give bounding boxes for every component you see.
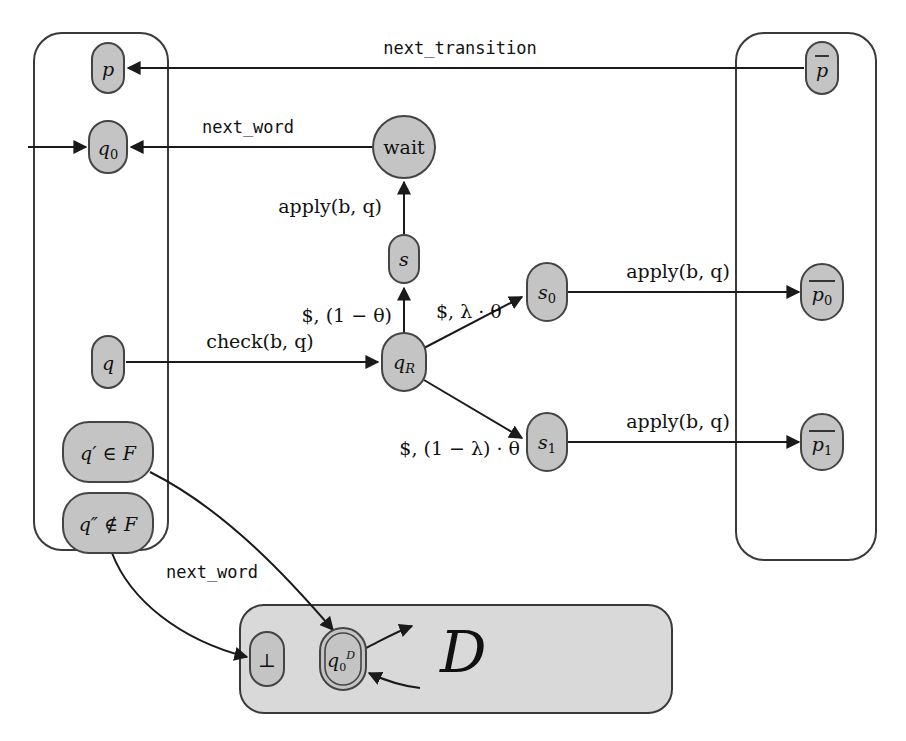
node-p-bar[interactable]: p [806, 42, 838, 94]
node-wait-label: wait [383, 136, 425, 158]
node-p-bar-0[interactable]: p0 [801, 264, 843, 320]
node-s[interactable]: s [389, 235, 419, 283]
node-q[interactable]: q [92, 336, 124, 388]
edge-qR-to-s1 [424, 380, 522, 438]
node-s-label: s [399, 248, 409, 270]
node-bottom-label: ⊥ [258, 649, 276, 671]
node-bottom[interactable]: ⊥ [250, 632, 284, 686]
node-p-bar-1[interactable]: p1 [801, 414, 843, 470]
node-p-bar-label: p [816, 59, 828, 81]
edge-label-apply-s1: apply(b, q) [626, 410, 730, 432]
edge-label-prob-stay: $, (1 − θ) [301, 304, 392, 326]
edge-label-apply-wait: apply(b, q) [278, 195, 382, 217]
node-p-label: p [102, 58, 114, 80]
node-q-dprime-notin-F-label: q″ ∉ F [79, 513, 138, 535]
node-qR[interactable]: qR [382, 333, 426, 391]
edge-label-prob-one-minus-lambda: $, (1 − λ) · θ [399, 437, 520, 459]
node-q-label: q [102, 352, 114, 374]
node-p[interactable]: p [92, 43, 124, 93]
node-q0-D[interactable]: q0D [320, 628, 366, 690]
diagram-canvas: next_transition next_word apply(b, q) $,… [0, 0, 906, 741]
edge-label-next-transition: next_transition [383, 38, 537, 58]
node-wait[interactable]: wait [373, 116, 435, 178]
calligraphic-D-label: D [439, 618, 487, 686]
node-q-prime-in-F[interactable]: q′ ∈ F [63, 422, 153, 482]
edge-label-next-word-bottom: next_word [166, 562, 258, 582]
state-diagram: next_transition next_word apply(b, q) $,… [0, 0, 906, 741]
edge-label-next-word-top: next_word [202, 117, 294, 137]
edge-label-prob-lambda: $, λ · θ [436, 300, 502, 322]
node-s1[interactable]: s1 [527, 413, 567, 471]
node-q-dprime-notin-F[interactable]: q″ ∉ F [63, 493, 153, 553]
node-s0[interactable]: s0 [527, 263, 567, 321]
edge-label-check: check(b, q) [206, 330, 314, 352]
node-q0[interactable]: q0 [89, 121, 127, 173]
edge-label-apply-s0: apply(b, q) [626, 260, 730, 282]
node-q-prime-in-F-label: q′ ∈ F [80, 442, 137, 464]
